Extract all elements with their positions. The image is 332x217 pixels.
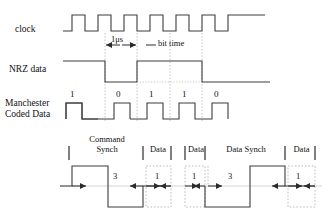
bit-time-label: bit time (158, 39, 184, 48)
row-label-manchester-line1: Manchester (5, 99, 49, 109)
bit-value-4: 0 (214, 90, 219, 99)
width-marker-right-data-2: 1 (296, 172, 300, 181)
row-label-manchester-line2: Coded Data (5, 110, 50, 120)
pulse-width-label: 1μs (111, 35, 123, 44)
timing-diagram-figure: clock NRZ data Manchester Coded Data 1μs… (0, 0, 332, 217)
bit-value-0: 1 (70, 90, 75, 99)
width-marker-left-data: 1 (155, 172, 159, 181)
row-label-clock: clock (15, 25, 36, 35)
bit-value-3: 1 (182, 90, 187, 99)
row-label-nrz-data: NRZ data (9, 65, 46, 75)
data-synch-label: Data Synch (207, 145, 285, 154)
width-marker-command-synch: 3 (113, 172, 117, 181)
width-marker-right-data-1: 1 (192, 172, 196, 181)
command-synch-label-line1: Command (76, 135, 138, 144)
command-synch-label-line2: Synch (76, 145, 138, 154)
nrz-data-waveform (63, 61, 270, 82)
bit-value-2: 1 (149, 90, 154, 99)
right-data-label-1: Data (186, 145, 206, 154)
width-marker-data-synch: 3 (228, 172, 232, 181)
guide-lines (105, 33, 202, 122)
manchester-waveform (66, 103, 228, 119)
bit-value-1: 0 (116, 90, 121, 99)
right-data-label-2: Data (288, 145, 315, 154)
left-data-label: Data (145, 145, 171, 154)
clock-waveform (63, 15, 265, 31)
